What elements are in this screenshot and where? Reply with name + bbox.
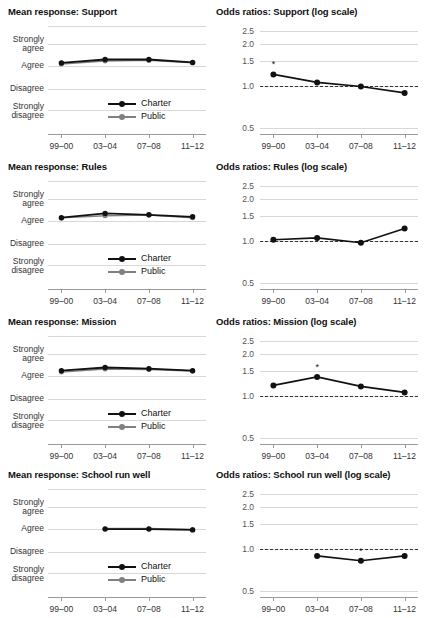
y-axis-label-mean: Agree: [0, 216, 44, 226]
legend-marker-charter: [119, 101, 125, 107]
data-point-charter: [102, 57, 107, 62]
legend-item-charter: Charter: [108, 98, 204, 111]
legend-marker-public: [119, 577, 125, 583]
x-axis-tick-label-mean: 99–00: [41, 296, 81, 306]
x-axis-odds-school_run_well: [260, 597, 418, 598]
legend-mean-support: CharterPublic: [108, 98, 204, 124]
y-axis-label-odds: 2.0: [212, 349, 254, 359]
legend-mean-rules: CharterPublic: [108, 253, 204, 279]
x-tick-odds: [405, 597, 406, 601]
x-axis-tick-label-odds: 07–08: [341, 141, 381, 151]
y-axis-label-mean: Stronglydisagree: [0, 257, 44, 276]
y-axis-label-odds: 1.5: [212, 519, 254, 529]
x-axis-tick-label-mean: 11–12: [173, 296, 213, 306]
data-point-odds-ratio: [270, 71, 276, 77]
legend-marker-charter: [119, 256, 125, 262]
figure-small-multiples-grid: Mean response: SupportStronglyagreeAgree…: [0, 0, 424, 618]
y-axis-label-mean: Stronglydisagree: [0, 412, 44, 431]
panel-title-mean-support: Mean response: Support: [8, 6, 117, 17]
y-axis-label-mean: Stronglydisagree: [0, 565, 44, 584]
significance-marker: *: [269, 61, 277, 67]
legend-marker-public: [119, 424, 125, 430]
x-tick-mean: [61, 597, 62, 601]
x-tick-mean: [149, 134, 150, 138]
x-axis-tick-label-mean: 07–08: [129, 604, 169, 614]
legend-label-public: Public: [141, 574, 166, 584]
series-line-odds-ratio: [273, 377, 404, 393]
plot-area-odds-school_run_well: *: [260, 489, 418, 597]
x-axis-tick-label-odds: 03–04: [297, 451, 337, 461]
data-point-charter: [146, 57, 151, 62]
series-group-odds-rules: [260, 181, 418, 289]
panel-title-mean-mission: Mean response: Mission: [8, 316, 116, 327]
legend-marker-charter: [119, 411, 125, 417]
x-tick-odds: [273, 289, 274, 293]
x-axis-tick-label-mean: 03–04: [85, 296, 125, 306]
data-point-odds-ratio: [402, 553, 408, 559]
x-tick-mean: [193, 289, 194, 293]
x-axis-tick-label-odds: 07–08: [341, 451, 381, 461]
data-point-odds-ratio: [314, 553, 320, 559]
x-tick-mean: [149, 289, 150, 293]
data-point-charter: [190, 527, 195, 532]
data-point-odds-ratio: [314, 374, 320, 380]
panel-mean-mission: Mean response: MissionStronglyagreeAgree…: [0, 316, 212, 466]
y-axis-label-mean: Stronglyagree: [0, 35, 44, 54]
data-point-charter: [102, 526, 107, 531]
x-tick-odds: [317, 597, 318, 601]
x-axis-tick-label-odds: 11–12: [385, 296, 424, 306]
x-tick-mean: [193, 444, 194, 448]
x-axis-tick-label-odds: 99–00: [253, 141, 293, 151]
series-group-odds-support: [260, 26, 418, 134]
panel-odds-school_run_well: Odds ratios: School run well (log scale)…: [212, 469, 424, 618]
y-axis-label-odds: 2.0: [212, 194, 254, 204]
x-axis-tick-label-odds: 99–00: [253, 296, 293, 306]
legend-marker-public: [119, 269, 125, 275]
y-axis-label-odds: 1.5: [212, 366, 254, 376]
x-axis-tick-label-mean: 99–00: [41, 451, 81, 461]
x-tick-mean: [149, 444, 150, 448]
x-axis-mean-rules: [48, 289, 206, 290]
x-tick-odds: [317, 134, 318, 138]
legend-label-charter: Charter: [141, 98, 171, 108]
data-point-odds-ratio: [402, 389, 408, 395]
y-axis-label-odds: 1.0: [212, 81, 254, 91]
y-axis-label-odds: 1.5: [212, 211, 254, 221]
x-axis-tick-label-mean: 11–12: [173, 141, 213, 151]
data-point-odds-ratio: [358, 240, 364, 246]
y-axis-label-mean: Agree: [0, 524, 44, 534]
x-tick-odds: [405, 444, 406, 448]
series-line-odds-ratio: [273, 228, 404, 242]
data-point-odds-ratio: [270, 237, 276, 243]
data-point-charter: [190, 368, 195, 373]
x-axis-tick-label-mean: 99–00: [41, 141, 81, 151]
x-axis-mean-school_run_well: [48, 597, 206, 598]
plot-area-odds-support: *: [260, 26, 418, 134]
legend-label-public: Public: [141, 266, 166, 276]
panel-mean-rules: Mean response: RulesStronglyagreeAgreeDi…: [0, 161, 212, 311]
panel-title-odds-school_run_well: Odds ratios: School run well (log scale): [216, 469, 390, 480]
x-axis-tick-label-odds: 07–08: [341, 604, 381, 614]
x-axis-tick-label-odds: 03–04: [297, 296, 337, 306]
y-axis-label-odds: 1.0: [212, 544, 254, 554]
data-point-odds-ratio: [314, 79, 320, 85]
x-axis-tick-label-odds: 11–12: [385, 604, 424, 614]
y-axis-label-odds: 0.5: [212, 433, 254, 443]
panel-title-odds-mission: Odds ratios: Mission (log scale): [216, 316, 356, 327]
y-axis-label-mean: Disagree: [0, 239, 44, 249]
x-tick-mean: [193, 597, 194, 601]
x-axis-tick-label-odds: 03–04: [297, 604, 337, 614]
panel-odds-mission: Odds ratios: Mission (log scale)2.52.01.…: [212, 316, 424, 466]
x-tick-mean: [61, 134, 62, 138]
y-axis-label-odds: 2.5: [212, 336, 254, 346]
legend-item-public: Public: [108, 421, 204, 434]
x-tick-mean: [105, 597, 106, 601]
x-axis-tick-label-mean: 07–08: [129, 141, 169, 151]
legend-mean-mission: CharterPublic: [108, 408, 204, 434]
legend-item-public: Public: [108, 266, 204, 279]
legend-label-charter: Charter: [141, 561, 171, 571]
y-axis-label-odds: 0.5: [212, 123, 254, 133]
panel-title-mean-rules: Mean response: Rules: [8, 161, 107, 172]
x-axis-mean-mission: [48, 444, 206, 445]
y-axis-label-mean: Disagree: [0, 84, 44, 94]
